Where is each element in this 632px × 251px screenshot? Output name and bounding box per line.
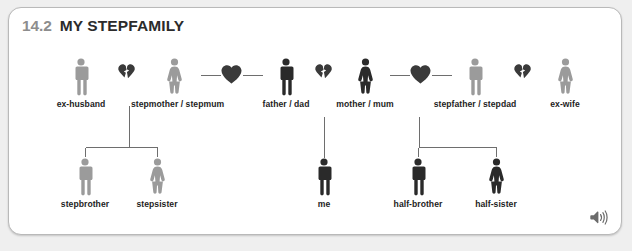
male-figure-icon (375, 156, 461, 196)
family-tree-diagram: ex-husband stepmother / stepmum (9, 8, 621, 234)
person-label: ex-husband (38, 99, 124, 109)
person-label: stepsister (114, 199, 200, 209)
female-figure-icon (114, 156, 200, 196)
person-label: ex-wife (522, 99, 608, 109)
female-figure-icon (522, 56, 608, 96)
person-label: stepmother / stepmum (131, 99, 217, 109)
male-figure-icon (281, 156, 367, 196)
person-label: me (281, 199, 367, 209)
person-ex-wife: ex-wife (522, 56, 608, 109)
person-me: me (281, 156, 367, 209)
person-half-sister: half-sister (453, 156, 539, 209)
person-mother: mother / mum (322, 56, 408, 109)
person-label: stepfather / stepdad (432, 99, 518, 109)
stepfamily-card: 14.2 MY STEPFAMILY (8, 7, 622, 235)
person-label: half-sister (453, 199, 539, 209)
person-half-brother: half-brother (375, 156, 461, 209)
female-figure-icon (453, 156, 539, 196)
female-figure-icon (322, 56, 408, 96)
person-label: father / dad (243, 99, 329, 109)
speaker-icon[interactable] (587, 206, 611, 228)
person-label: half-brother (375, 199, 461, 209)
person-stepmother: stepmother / stepmum (131, 56, 217, 109)
person-label: mother / mum (322, 99, 408, 109)
person-stepsister: stepsister (114, 156, 200, 209)
female-figure-icon (131, 56, 217, 96)
